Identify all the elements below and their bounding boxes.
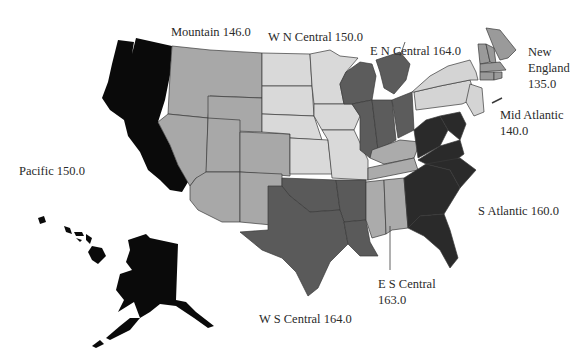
label-ws-central: W S Central 164.0 [259,311,352,327]
map-graphic [0,0,586,356]
region-pacific-alaska[interactable] [92,234,214,348]
region-name-line2: England [528,60,570,76]
region-value: 164.0 [324,312,352,326]
label-mountain: Mountain 146.0 [171,24,251,40]
region-value: 140.0 [500,123,564,139]
label-pacific: Pacific 150.0 [19,163,85,179]
region-name: W N Central [268,30,332,44]
region-name: Mid Atlantic [500,107,564,123]
region-name: Pacific [19,164,54,178]
region-name: S Atlantic [478,204,528,218]
region-mid-atlantic[interactable] [412,60,484,116]
region-name: W S Central [259,312,321,326]
label-s-atlantic: S Atlantic 160.0 [478,203,559,219]
us-census-division-map: Mountain 146.0 W N Central 150.0 E N Cen… [0,0,586,356]
region-value: 163.0 [378,292,436,308]
label-new-england: New England 135.0 [528,44,570,92]
label-es-central: E S Central 163.0 [378,276,436,308]
region-name: E N Central [370,44,430,58]
region-new-england[interactable] [478,28,516,80]
region-name: E S Central [378,276,436,292]
region-value: 150.0 [335,30,363,44]
label-wn-central: W N Central 150.0 [268,29,363,45]
region-value: 146.0 [223,25,251,39]
label-mid-atlantic: Mid Atlantic 140.0 [500,107,564,139]
region-value: 164.0 [433,44,461,58]
region-s-atlantic[interactable] [404,112,476,268]
region-value: 135.0 [528,76,570,92]
region-name-line1: New [528,44,570,60]
label-en-central: E N Central 164.0 [370,43,461,59]
region-value: 160.0 [531,204,559,218]
region-pacific-hawaii[interactable] [38,216,106,264]
mid-atlantic-leader [492,98,502,103]
region-value: 150.0 [57,164,85,178]
region-name: Mountain [171,25,220,39]
